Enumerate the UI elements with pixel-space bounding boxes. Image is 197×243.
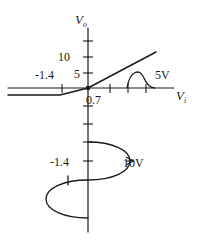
y-tick-label-5: 5 — [74, 68, 80, 80]
axes-group — [8, 28, 174, 232]
x-axis-label-subscript: i — [184, 96, 186, 105]
transfer-characteristic-figure: Vo Vi 10 5 -1.4 0.7 5V -1.4 10V — [0, 0, 197, 243]
output-halfwave-5v — [127, 72, 155, 88]
output-waveform-group — [127, 72, 155, 88]
y-tick-label-10: 10 — [58, 51, 70, 63]
y-axis-label-text: V — [75, 12, 83, 27]
y-axis-label: Vo — [75, 13, 87, 26]
input-break-label-neg-1p4: -1.4 — [50, 156, 69, 168]
output-amplitude-label: 5V — [155, 69, 170, 81]
x-axis-label-text: V — [176, 88, 184, 103]
input-amplitude-label: 10V — [123, 157, 144, 169]
y-axis-label-subscript: o — [83, 20, 87, 29]
diagram-canvas — [0, 0, 197, 243]
x-tick-label-neg-1p4: -1.4 — [35, 69, 54, 81]
x-axis-label: Vi — [176, 89, 186, 102]
origin-marker — [86, 86, 91, 91]
x-tick-label-0p7: 0.7 — [86, 94, 101, 106]
